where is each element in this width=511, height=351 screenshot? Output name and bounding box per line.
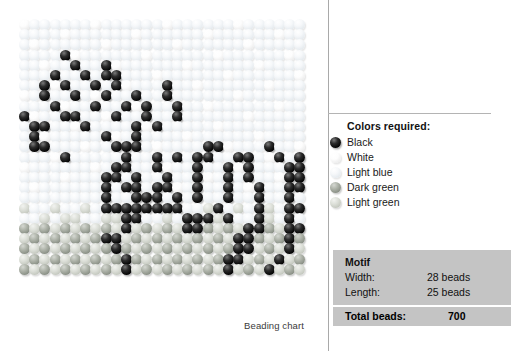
bead-light-blue <box>101 50 112 61</box>
motif-summary-table: Motif Width: 28 beads Length: 25 beads T… <box>333 250 511 326</box>
bead-black <box>294 203 305 214</box>
bead-black <box>152 152 163 163</box>
bead-light-green <box>39 254 50 265</box>
legend-item-label: White <box>347 150 374 165</box>
horizontal-divider <box>328 113 491 114</box>
motif-row-value: 25 beads <box>427 285 470 300</box>
bead-light-blue <box>39 39 50 50</box>
bead-light-green <box>90 264 101 275</box>
legend-item-black: Black <box>334 135 511 150</box>
legend-item-label: Black <box>347 135 373 150</box>
bead-black <box>294 152 305 163</box>
bead-white <box>50 152 61 163</box>
bead-white <box>243 39 254 50</box>
bead-light-green <box>192 243 203 254</box>
bead-dark-green <box>101 264 112 275</box>
vertical-divider <box>328 0 329 351</box>
legend-item-label: Light blue <box>347 165 393 180</box>
bead-black <box>192 192 203 203</box>
bead-grid <box>19 19 300 314</box>
bead-black <box>39 141 50 152</box>
bead-light-green <box>294 264 305 275</box>
bead-light-blue <box>101 141 112 152</box>
motif-row-width: Width: 28 beads <box>333 270 511 285</box>
bead-light-green <box>243 254 254 265</box>
bead-light-blue <box>243 101 254 112</box>
bead-light-blue <box>50 141 61 152</box>
bead-dark-green <box>101 243 112 254</box>
bead-light-blue <box>50 50 61 61</box>
bead-light-blue <box>39 50 50 61</box>
bead-white <box>152 141 163 152</box>
bead-icon <box>330 167 341 178</box>
bead-light-blue <box>39 101 50 112</box>
bead-light-blue <box>243 203 254 214</box>
bead-black <box>141 101 152 112</box>
bead-light-blue <box>254 141 265 152</box>
bead-black <box>39 90 50 101</box>
bead-light-blue <box>192 101 203 112</box>
bead-dark-green <box>39 264 50 275</box>
legend-item-label: Dark green <box>347 180 399 195</box>
bead-light-blue <box>50 192 61 203</box>
bead-light-blue <box>294 90 305 101</box>
bead-light-blue <box>203 90 214 101</box>
bead-icon <box>330 152 341 163</box>
legend-item-white: White <box>334 150 511 165</box>
bead-light-blue <box>203 39 214 50</box>
bead-dark-green <box>243 264 254 275</box>
side-panel: Colors required: Black White Light blue … <box>328 0 511 351</box>
bead-black <box>101 90 112 101</box>
bead-white <box>90 90 101 101</box>
bead-dark-green <box>254 254 265 265</box>
bead-light-blue <box>203 50 214 61</box>
bead-light-blue <box>203 192 214 203</box>
bead-black <box>141 203 152 214</box>
bead-black <box>192 152 203 163</box>
legend-item-label: Light green <box>347 195 400 210</box>
bead-light-green <box>90 243 101 254</box>
bead-dark-green <box>50 254 61 265</box>
bead-light-blue <box>192 203 203 214</box>
bead-light-blue <box>90 50 101 61</box>
bead-light-green <box>152 243 163 254</box>
bead-light-blue <box>141 152 152 163</box>
bead-light-blue <box>192 141 203 152</box>
bead-light-blue <box>152 90 163 101</box>
beading-chart-panel: Beading chart <box>0 0 320 351</box>
bead-black <box>152 192 163 203</box>
bead-black <box>243 152 254 163</box>
bead-light-blue <box>243 141 254 152</box>
bead-black <box>90 101 101 112</box>
motif-table-body: Motif Width: 28 beads Length: 25 beads <box>333 250 511 305</box>
bead-icon <box>330 197 341 208</box>
bead-black <box>254 192 265 203</box>
bead-light-blue <box>101 152 112 163</box>
motif-row-label: Length: <box>345 285 380 300</box>
bead-light-blue <box>90 39 101 50</box>
bead-white <box>203 101 214 112</box>
bead-light-blue <box>90 203 101 214</box>
bead-white <box>141 50 152 61</box>
bead-light-green <box>192 264 203 275</box>
bead-light-green <box>203 254 214 265</box>
bead-dark-green <box>141 243 152 254</box>
bead-black <box>141 192 152 203</box>
bead-light-blue <box>254 101 265 112</box>
bead-light-green <box>101 254 112 265</box>
bead-light-blue <box>141 90 152 101</box>
bead-black <box>243 243 254 254</box>
bead-light-blue <box>243 50 254 61</box>
bead-light-blue <box>50 39 61 50</box>
bead-light-green <box>254 243 265 254</box>
bead-black <box>203 141 214 152</box>
bead-light-blue <box>243 192 254 203</box>
bead-light-blue <box>192 39 203 50</box>
bead-light-green <box>254 264 265 275</box>
bead-dark-green <box>90 254 101 265</box>
bead-light-blue <box>192 50 203 61</box>
bead-light-blue <box>39 152 50 163</box>
bead-light-blue <box>294 39 305 50</box>
bead-white <box>101 39 112 50</box>
bead-light-blue <box>152 50 163 61</box>
